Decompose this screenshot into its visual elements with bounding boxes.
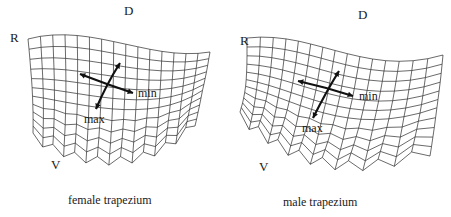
max-curvature-arrow xyxy=(313,71,339,118)
dorsal-label: D xyxy=(124,4,133,17)
volar-label: V xyxy=(259,160,268,173)
max-curvature-label: max xyxy=(84,113,105,125)
max-curvature-label: max xyxy=(302,122,323,134)
figure-caption: female trapezium xyxy=(68,193,152,208)
min-curvature-label: min xyxy=(138,87,157,99)
female-trapezium-panel: D R V min max female trapezium xyxy=(0,0,225,217)
male-saddle-mesh xyxy=(225,0,451,217)
radial-label: R xyxy=(240,34,249,47)
radial-label: R xyxy=(10,31,19,44)
volar-label: V xyxy=(51,158,60,171)
mesh-grid xyxy=(240,37,443,171)
mesh-grid xyxy=(28,35,210,165)
male-trapezium-panel: D R V min max male trapezium xyxy=(225,0,451,217)
dorsal-label: D xyxy=(358,8,367,21)
figure-caption: male trapezium xyxy=(283,195,357,210)
female-saddle-mesh xyxy=(0,0,225,217)
min-curvature-label: min xyxy=(359,90,378,102)
